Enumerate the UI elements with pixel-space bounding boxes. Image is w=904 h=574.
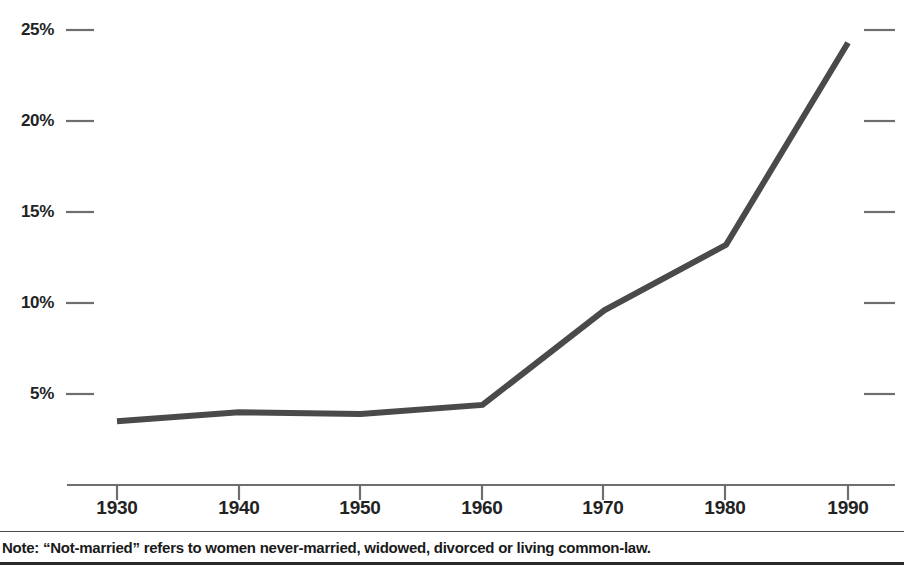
x-tick-label-1970: 1970 — [563, 497, 643, 519]
footnote-text: Note: “Not-married” refers to women neve… — [0, 532, 904, 562]
y-tick-label-20: 20% — [0, 111, 54, 131]
chart-plot-area — [0, 0, 904, 574]
footnote-rule-bottom — [0, 562, 904, 565]
x-tick-label-1950: 1950 — [320, 497, 400, 519]
x-tick-label-1990: 1990 — [808, 497, 888, 519]
y-axis-left-ticks — [66, 30, 94, 394]
x-tick-label-1940: 1940 — [199, 497, 279, 519]
y-tick-label-25: 25% — [0, 20, 54, 40]
chart-footnote-block: Note: “Not-married” refers to women neve… — [0, 531, 904, 565]
y-tick-label-10: 10% — [0, 293, 54, 313]
x-tick-label-1980: 1980 — [685, 497, 765, 519]
chart-figure: 25% 20% 15% 10% 5% 1930 1940 1950 1960 1… — [0, 0, 904, 574]
x-tick-label-1960: 1960 — [442, 497, 522, 519]
y-tick-label-5: 5% — [0, 384, 54, 404]
x-tick-label-1930: 1930 — [77, 497, 157, 519]
data-series-line — [117, 43, 848, 422]
y-tick-label-15: 15% — [0, 202, 54, 222]
y-axis-right-ticks — [864, 30, 895, 394]
